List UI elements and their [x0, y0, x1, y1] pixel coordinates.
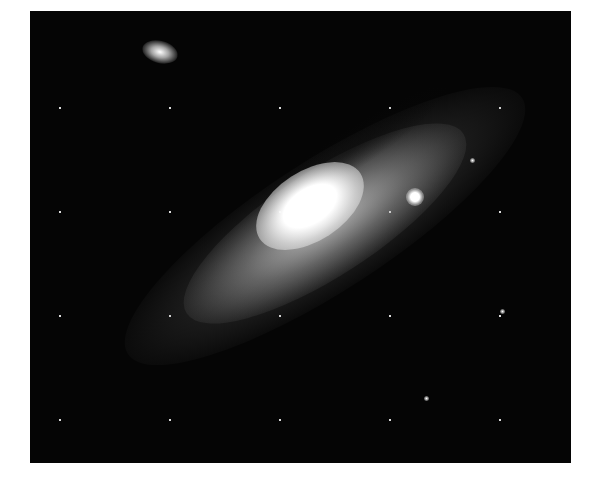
bright-star: [470, 158, 475, 163]
companion-galaxy-bright: [406, 188, 424, 206]
bright-star: [424, 396, 429, 401]
galaxy-photograph: Andromeda Galaxy (M31): [30, 11, 571, 463]
bright-star: [500, 309, 505, 314]
